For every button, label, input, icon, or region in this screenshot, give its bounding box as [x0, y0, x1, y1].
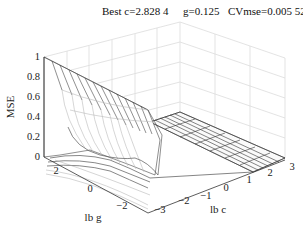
- svg-text:−2: −2: [116, 200, 127, 211]
- surface-plot: 0 0.2 0.4 0.6 0.8 1 MSE 2 0 −2 lb g −3 −…: [0, 0, 303, 233]
- c-axis-label: lb c: [210, 203, 226, 215]
- z-axis-ticks: 0 0.2 0.4 0.6 0.8 1: [27, 51, 41, 162]
- svg-text:1: 1: [35, 51, 40, 62]
- svg-text:0.2: 0.2: [27, 131, 40, 142]
- g-axis-label: lb g: [85, 211, 102, 223]
- g-axis-ticks: 2 0 −2: [53, 165, 127, 211]
- z-axis-label: MSE: [4, 95, 16, 118]
- surface-floor-lines: [46, 160, 150, 209]
- svg-text:0: 0: [87, 183, 92, 194]
- svg-text:2: 2: [267, 167, 272, 178]
- svg-text:0: 0: [35, 151, 40, 162]
- svg-text:3: 3: [289, 161, 294, 172]
- svg-text:0.4: 0.4: [27, 111, 41, 122]
- svg-text:−1: −1: [200, 190, 211, 201]
- svg-text:2: 2: [53, 165, 58, 176]
- svg-text:0: 0: [223, 182, 228, 193]
- surface-high: [44, 57, 162, 175]
- svg-text:0.6: 0.6: [27, 91, 40, 102]
- svg-text:1: 1: [246, 174, 251, 185]
- svg-text:−3: −3: [154, 204, 165, 215]
- svg-text:−2: −2: [178, 195, 189, 206]
- svg-text:0.8: 0.8: [27, 71, 40, 82]
